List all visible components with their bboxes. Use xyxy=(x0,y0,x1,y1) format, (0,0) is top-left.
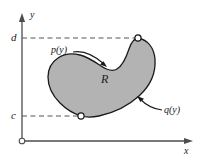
lower-bound-label: c xyxy=(11,110,16,121)
y-axis xyxy=(19,13,25,141)
y-axis-arrowhead xyxy=(19,13,25,22)
region-diagram-figure: y x d c p(y) q(y) R xyxy=(0,0,202,163)
right-curve-label: q(y) xyxy=(164,105,180,115)
q-leader-line xyxy=(140,99,162,110)
x-axis-label: x xyxy=(184,146,188,156)
origin-marker xyxy=(19,138,25,144)
upper-boundary-point-marker xyxy=(135,35,141,41)
upper-bound-label: d xyxy=(11,32,17,43)
x-axis xyxy=(22,138,193,144)
region-label: R xyxy=(101,73,108,85)
q-leader-arrow xyxy=(137,96,162,110)
left-curve-label: p(y) xyxy=(51,45,67,55)
y-axis-label: y xyxy=(30,10,34,20)
lower-boundary-point-marker xyxy=(78,113,84,119)
x-axis-arrowhead xyxy=(184,138,193,144)
